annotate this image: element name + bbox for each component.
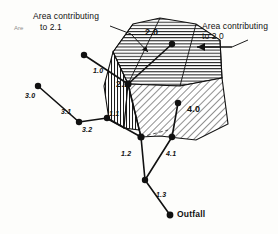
leader-line-area-2-0 — [232, 40, 248, 47]
diagram-canvas: Area contributing to 2.1 Are Area contri… — [0, 0, 278, 234]
manhole-4-0-head — [175, 100, 181, 106]
manhole-1-0-head — [81, 52, 87, 58]
annotation-area-2-0-line2: to 2.0 — [202, 32, 224, 41]
catchment-area-4-0 — [128, 78, 228, 140]
manhole-3-0-head — [35, 83, 41, 89]
pipe-label-3-0: 3.0 — [25, 92, 35, 99]
annotation-area-2-0-line1: Area contributing — [202, 22, 268, 31]
pipe-label-1-2: 1.2 — [121, 150, 131, 157]
annotation-ghost-artifact: Are — [14, 25, 23, 31]
area-label-4-0: 4.0 — [187, 105, 200, 114]
area-label-2-0: 2.0 — [145, 28, 158, 37]
pipe-link-3-0 — [38, 86, 79, 122]
manhole-4-1-foot — [169, 134, 175, 140]
annotation-area-2-1-line2: to 2.1 — [40, 23, 62, 32]
pipe-link-3-1 — [79, 118, 107, 122]
pipe-link-1-2 — [141, 137, 145, 180]
pipe-label-3-1: 3.1 — [61, 108, 71, 115]
manhole-outfall — [167, 212, 174, 219]
manhole-outfall-junction — [142, 177, 148, 183]
outfall-label: Outfall — [177, 210, 205, 219]
annotation-area-2-1-line1: Area contributing — [33, 12, 99, 21]
pipe-label-1-1: 1.1 — [109, 110, 119, 117]
pipe-label-4-1: 4.1 — [166, 150, 176, 157]
pipe-label-3-2: 3.2 — [82, 126, 92, 133]
pipe-label-1-0: 1.0 — [93, 67, 103, 74]
area-label-2-1: 2.1 — [116, 80, 129, 89]
pipe-link-4-1 — [145, 137, 172, 180]
manhole-3-1 — [76, 119, 82, 125]
diagram-svg — [0, 0, 278, 234]
pipe-label-1-3: 1.3 — [156, 191, 166, 198]
manhole-junction — [137, 133, 144, 140]
manhole-2-0-head — [169, 41, 175, 47]
